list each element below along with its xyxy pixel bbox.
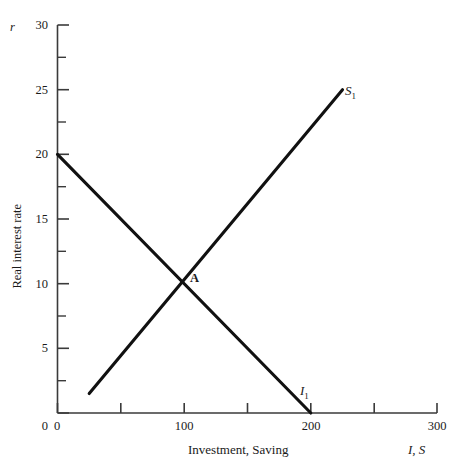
investment-curve-label-subscript: 1 <box>304 391 309 401</box>
y-axis-symbol: r <box>10 21 15 34</box>
y-tick-label-30: 30 <box>18 19 48 32</box>
x-tick-label-100: 100 <box>164 420 204 433</box>
x-tick-label-0: 0 <box>37 420 77 433</box>
x-axis-title: Investment, Saving <box>188 443 288 456</box>
y-tick-label-25: 25 <box>18 84 48 97</box>
x-tick-label-200: 200 <box>291 420 331 433</box>
chart-background <box>0 0 458 465</box>
y-tick-label-5: 5 <box>18 342 48 355</box>
saving-curve-label-subscript: 1 <box>352 91 357 101</box>
saving-curve-label: S1 <box>345 84 356 101</box>
x-axis-symbol: I, S <box>408 443 425 456</box>
y-tick-label-20: 20 <box>18 148 48 161</box>
equilibrium-point-label: A <box>190 272 199 285</box>
supply-demand-chart <box>0 0 458 465</box>
x-tick-label-300: 300 <box>417 420 457 433</box>
y-axis-title: Real interest rate <box>11 186 24 306</box>
investment-curve-label: I1 <box>300 384 309 401</box>
